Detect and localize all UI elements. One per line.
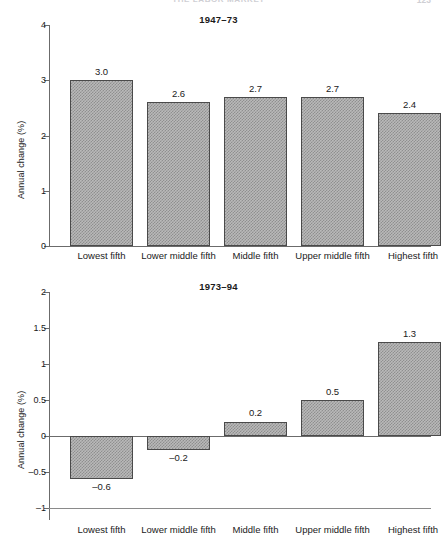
chart-1-category-upper-middle-fifth: Upper middle fifth [285,250,380,261]
chart-1-category-highest-fifth: Highest fifth [373,250,445,261]
bar-value-lowest-fifth: –0.6 [70,481,133,492]
chart-1973-94: 1973–94 Annual change (%) 2 1.5 1 [0,281,437,536]
bar-highest-fifth [378,113,441,246]
chart-2-y-axis [49,292,50,520]
chart-1-ytick-label-0: 0 [41,241,46,251]
bar-value-highest-fifth: 2.4 [378,99,441,110]
chart-1-x-axis [49,246,431,247]
bar-lower-middle-fifth [147,102,210,246]
chart-2-category-upper-middle-fifth: Upper middle fifth [285,524,380,535]
chart-2-ytick-label-1-5: 1.5 [33,323,46,333]
chart-2-x-axis [49,508,431,509]
page-number: 123 [417,0,431,5]
chart-1-plot-area: 4 3 2 1 0 3.0 2.6 2. [49,25,431,247]
chart-2-ytick-label-2: 2 [41,287,46,297]
chart-2-category-labels: Lowest fifth Lower middle fifth Middle f… [49,524,431,538]
running-head-title: THE LABOR MARKET [0,0,437,4]
bar-value-lower-middle-fifth: 2.6 [147,88,210,99]
bar-lowest-fifth [70,436,133,479]
chart-1-y-axis [49,25,50,247]
bar-value-lower-middle-fifth: –0.2 [147,452,210,463]
chart-2-ytick-label-minus-0-5: –0.5 [28,467,46,477]
chart-1-ytick-label-4: 4 [41,20,46,30]
bar-upper-middle-fifth [301,400,364,436]
chart-1-category-labels: Lowest fifth Lower middle fifth Middle f… [49,250,431,264]
bar-lower-middle-fifth [147,436,210,450]
chart-2-ytick-label-1: 1 [41,359,46,369]
bar-middle-fifth [224,97,287,246]
bar-value-upper-middle-fifth: 0.5 [301,386,364,397]
chart-2-ytick-label-0-5: 0.5 [33,395,46,405]
bar-value-upper-middle-fifth: 2.7 [301,83,364,94]
chart-1-ytick-label-2: 2 [41,131,46,141]
chart-2-category-lower-middle-fifth: Lower middle fifth [131,524,226,535]
chart-2-plot-area: 2 1.5 1 0.5 0 –0.5 [49,292,431,520]
bar-value-middle-fifth: 2.7 [224,83,287,94]
chart-1-title: 1947–73 [0,14,437,25]
bar-upper-middle-fifth [301,97,364,246]
running-head: THE LABOR MARKET 123 [0,0,437,5]
chart-1-ytick-label-3: 3 [41,75,46,85]
chart-1-category-lower-middle-fifth: Lower middle fifth [131,250,226,261]
chart-1-y-axis-label: Annual change (%) [16,121,26,199]
chart-1-category-middle-fifth: Middle fifth [217,250,294,261]
chart-2-category-highest-fifth: Highest fifth [373,524,445,535]
chart-1947-73: 1947–73 Annual change (%) 4 3 2 1 [0,14,437,264]
chart-2-ytick-label-minus-1: –1 [36,503,46,513]
chart-2-category-middle-fifth: Middle fifth [217,524,294,535]
chart-1-ytick-label-1: 1 [41,186,46,196]
bar-value-highest-fifth: 1.3 [378,328,441,339]
chart-2-title: 1973–94 [0,281,437,292]
chart-2-ytick-label-0: 0 [41,431,46,441]
chart-2-y-axis-label: Annual change (%) [16,391,26,469]
bar-value-lowest-fifth: 3.0 [70,66,133,77]
bar-middle-fifth [224,422,287,436]
bar-highest-fifth [378,342,441,436]
bar-value-middle-fifth: 0.2 [224,407,287,418]
bar-lowest-fifth [70,80,133,246]
